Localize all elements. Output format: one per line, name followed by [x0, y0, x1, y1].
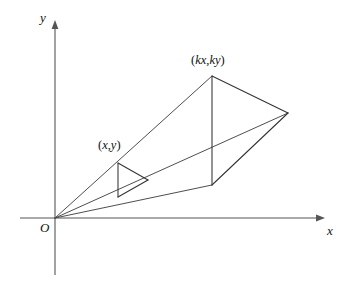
- large-label-kx: kx: [195, 53, 206, 67]
- rays-group: [55, 76, 288, 218]
- x-axis-arrowhead: [316, 215, 325, 222]
- y-axis-arrowhead: [52, 20, 59, 29]
- origin-label: O: [40, 221, 49, 234]
- ray-upper: [55, 76, 212, 218]
- y-axis-label: y: [40, 11, 46, 24]
- small-edge-top-right: [118, 163, 148, 180]
- ray-middle: [55, 113, 288, 218]
- figure-container: y x O (x,y) (kx,ky): [0, 0, 340, 282]
- large-label-close: ): [221, 53, 225, 67]
- axes-group: [20, 20, 325, 275]
- diagram-canvas: [0, 0, 340, 282]
- large-edge-bottom-right: [212, 113, 288, 185]
- small-label-close: ): [116, 138, 120, 152]
- ray-lower: [55, 185, 212, 218]
- small-point-label: (x,y): [98, 139, 121, 152]
- small-figure-group: [118, 163, 148, 197]
- x-axis-label: x: [327, 224, 333, 237]
- large-edge-top-right: [212, 76, 288, 113]
- large-point-label: (kx,ky): [191, 54, 225, 67]
- large-label-ky: ky: [209, 53, 220, 67]
